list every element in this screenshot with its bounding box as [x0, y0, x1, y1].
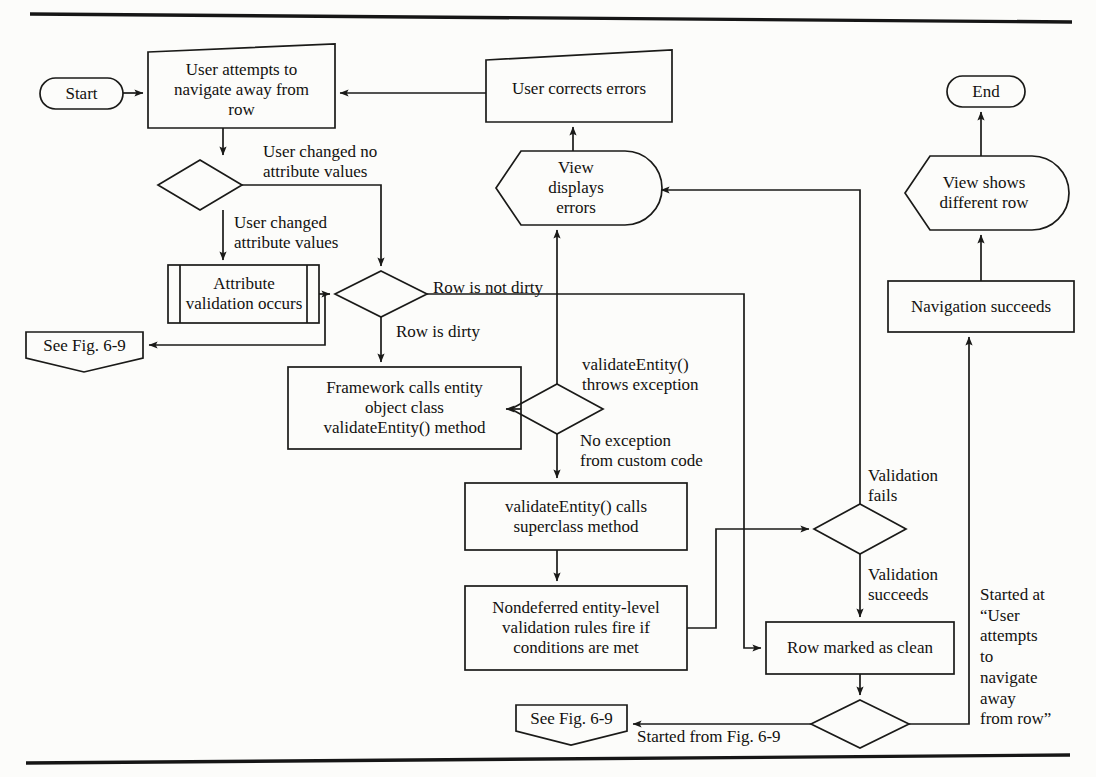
- shape-navigation-succeeds: [888, 281, 1074, 332]
- shape-nondeferred-rules: [465, 586, 687, 670]
- edge-attribute-validation-to-see-fig-top: [149, 294, 325, 345]
- shape-attribute-validation: [168, 265, 319, 323]
- edge-decision-started-at-user: [909, 337, 969, 724]
- shape-start: [40, 78, 123, 109]
- shape-decision-started: [811, 700, 909, 748]
- shape-decision-dirty: [335, 271, 427, 317]
- edge-decision-dirty-not: [427, 294, 761, 648]
- figure-canvas: Start User attempts to navigate away fro…: [0, 0, 1096, 777]
- shape-decision-exception: [511, 384, 603, 434]
- shape-end: [947, 76, 1025, 107]
- edge-decision-validation-fails: [661, 190, 860, 504]
- bottom-rule: [26, 755, 1070, 763]
- shape-validate-entity-calls: [465, 483, 687, 550]
- shape-decision-validation: [814, 504, 906, 554]
- shape-view-displays-errors: [496, 151, 662, 225]
- flowchart-svg: [0, 0, 1096, 777]
- shape-see-fig-bottom: [516, 705, 627, 745]
- shape-user-attempts: [148, 44, 335, 128]
- edge-decision-changed-no: [242, 185, 381, 266]
- shape-framework-calls: [288, 367, 521, 449]
- shape-user-corrects-errors: [486, 50, 672, 122]
- edge-nondeferred-to-decision-validation: [687, 529, 809, 628]
- shape-row-marked-clean: [766, 622, 954, 674]
- top-rule: [30, 14, 1072, 22]
- shape-view-shows-different-row: [905, 156, 1069, 230]
- shape-decision-changed: [158, 160, 242, 210]
- shape-see-fig-top: [26, 332, 143, 372]
